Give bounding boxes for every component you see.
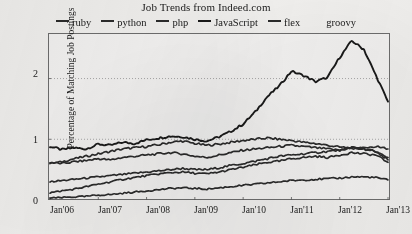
chart-legend: rubypythonphpJavaScriptflexgroovy <box>0 15 412 28</box>
legend-item-groovy: groovy <box>310 16 356 28</box>
legend-item-php: php <box>156 16 188 28</box>
legend-swatch-javascript <box>198 20 211 23</box>
legend-swatch-groovy <box>310 20 323 23</box>
series-line-groovy <box>50 176 388 198</box>
y-tick-0: 0 <box>18 196 38 206</box>
legend-label-groovy: groovy <box>326 17 356 28</box>
legend-item-python: python <box>101 16 146 28</box>
legend-swatch-flex <box>268 20 281 23</box>
legend-label-flex: flex <box>284 17 300 28</box>
plot-area: Percentage of Matching Job Postings 0 1 … <box>48 33 390 200</box>
legend-swatch-python <box>101 20 114 23</box>
x-tick-jan09: Jan'09 <box>184 205 228 215</box>
legend-swatch-php <box>156 20 169 23</box>
x-tick-jan10: Jan'10 <box>232 205 276 215</box>
legend-label-php: php <box>172 17 188 28</box>
x-tick-jan08: Jan'08 <box>136 205 180 215</box>
legend-item-flex: flex <box>268 16 300 28</box>
series-line-python <box>50 146 388 182</box>
legend-label-javascript: JavaScript <box>214 17 258 28</box>
chart-title: Job Trends from Indeed.com <box>0 1 412 13</box>
series-line-ruby <box>50 152 388 193</box>
x-tick-jan07: Jan'07 <box>88 205 132 215</box>
x-tick-jan13: Jan'13 <box>376 205 412 215</box>
x-tick-jan11: Jan'11 <box>280 205 324 215</box>
x-tick-jan06: Jan'06 <box>40 205 84 215</box>
legend-item-javascript: JavaScript <box>198 16 258 28</box>
series-line-javascript <box>50 41 388 150</box>
plot-lines-svg <box>48 33 390 200</box>
y-tick-1: 1 <box>18 135 38 145</box>
y-axis-label: Percentage of Matching Job Postings <box>66 0 76 158</box>
x-tick-jan12: Jan'12 <box>328 205 372 215</box>
legend-label-python: python <box>117 17 146 28</box>
y-tick-2: 2 <box>18 69 38 79</box>
